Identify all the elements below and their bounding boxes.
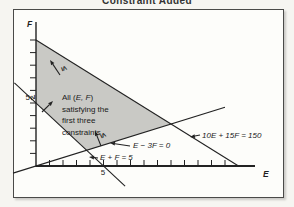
x-axis-tick-label-5: 5 [97,168,109,177]
region-caption-line3: first three [62,115,109,127]
figure-title: Constraint Added [0,0,294,6]
label-e-plus-f: E + F = 5 [100,153,133,162]
x-axis-label: E [263,169,269,179]
region-caption: All (E, F) satisfying the first three co… [62,92,109,138]
region-caption-line1: All (E, F) [62,92,109,104]
label-new-constraint: 10E + 15F = 150 [202,131,261,140]
label-e-minus-3f: E − 3F = 0 [133,141,170,150]
y-axis-label: F [27,19,32,29]
figure-frame [13,9,284,198]
figure-canvas: Constraint Added F E 5 5 All (E, F) sati… [0,0,294,207]
region-caption-line2: satisfying the [62,104,109,116]
